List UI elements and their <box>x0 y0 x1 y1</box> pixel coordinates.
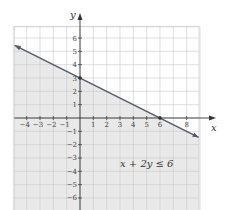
x-tick-label: 8 <box>184 121 188 129</box>
x-tick-label: 6 <box>158 121 163 129</box>
x-tick-label: −2 <box>46 121 56 129</box>
y-tick-label: −5 <box>67 181 77 189</box>
inequality-graph: −4−3−2−11234568654321−1−2−3−4−5−6 x y x … <box>0 0 229 210</box>
y-tick-label: 1 <box>73 101 77 109</box>
y-tick-label: 3 <box>73 75 77 83</box>
y-tick-label: −6 <box>67 194 78 202</box>
x-tick-label: 1 <box>91 121 95 129</box>
y-tick-label: 2 <box>73 88 77 96</box>
y-axis-label: y <box>69 9 76 20</box>
x-tick-label: 4 <box>131 121 136 129</box>
y-axis-arrow-icon <box>78 13 83 20</box>
line-arrow-icon <box>192 132 198 137</box>
x-tick-label: 2 <box>104 121 108 129</box>
y-tick-label: 6 <box>73 35 78 43</box>
x-tick-label: 3 <box>118 121 122 129</box>
y-tick-label: −1 <box>67 128 77 136</box>
x-tick-label: −4 <box>20 121 31 129</box>
x-axis-label: x <box>211 122 217 133</box>
y-tick-label: −4 <box>67 168 78 176</box>
y-tick-label: −2 <box>67 141 77 149</box>
x-tick-label: −3 <box>33 121 43 129</box>
x-axis-arrow-icon <box>209 116 216 121</box>
intercept-point <box>78 76 82 80</box>
y-tick-label: −3 <box>67 154 77 162</box>
y-tick-label: 4 <box>73 61 78 69</box>
x-tick-label: 5 <box>144 121 148 129</box>
intercept-point <box>158 116 162 120</box>
y-tick-label: 5 <box>73 48 77 56</box>
inequality-label: x + 2y ≤ 6 <box>120 158 174 169</box>
